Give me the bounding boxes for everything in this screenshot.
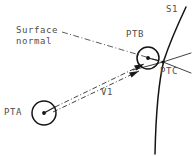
label-ptc: PTC xyxy=(160,66,178,77)
label-s1: S1 xyxy=(166,4,178,15)
surface-curve-s1 xyxy=(155,7,186,154)
pta-center-dot xyxy=(42,111,46,115)
ptc-intersection-dot xyxy=(161,60,164,63)
diagram-graphics xyxy=(0,0,192,157)
tangent-line-upper-right xyxy=(163,53,191,62)
ptb-center-dot xyxy=(146,56,150,60)
label-ptb: PTB xyxy=(126,29,144,40)
vector-v1-arrowhead-lower xyxy=(129,71,139,78)
vector-v1-rail-upper xyxy=(55,64,144,107)
vector-v1 xyxy=(53,64,144,112)
label-surface-normal: Surface normal xyxy=(16,25,58,47)
point-marker-pta xyxy=(32,101,56,125)
diagram-canvas: Surface normal PTA PTB PTC S1 V1 xyxy=(0,0,192,157)
vector-v1-rail-lower xyxy=(53,71,139,112)
label-pta: PTA xyxy=(4,107,22,118)
label-v1: V1 xyxy=(101,87,113,98)
